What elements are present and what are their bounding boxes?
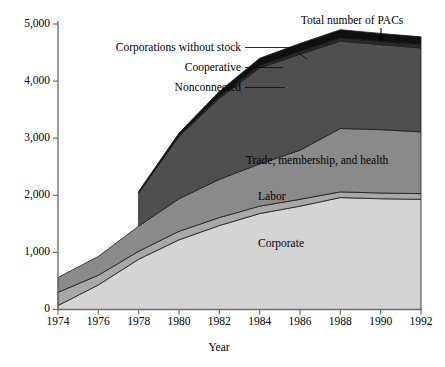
x-tick-label: 1974 — [47, 315, 70, 327]
x-tick-label: 1984 — [248, 315, 271, 327]
y-axis-tick-labels: 5,000 4,000 3,000 2,000 1,000 0 — [24, 17, 50, 314]
x-tick-label: 1992 — [410, 315, 433, 327]
stacked-area-chart: 5,000 4,000 3,000 2,000 1,000 0 1974 197… — [0, 0, 445, 367]
y-tick-label: 0 — [44, 302, 50, 314]
label-corporate: Corporate — [258, 237, 304, 250]
x-tick-label: 1978 — [127, 315, 150, 327]
y-tick-label: 3,000 — [24, 131, 50, 144]
x-tick-label: 1986 — [289, 315, 312, 327]
x-tick-label: 1982 — [208, 315, 231, 327]
label-trade-membership-and-health: Trade, membership, and health — [246, 154, 389, 167]
x-tick-label: 1976 — [87, 315, 110, 327]
label-corporations-without-stock: Corporations without stock — [116, 41, 241, 54]
y-tick-label: 5,000 — [24, 17, 50, 30]
y-axis-ticks — [53, 24, 58, 310]
x-axis-ticks — [58, 310, 421, 315]
label-labor: Labor — [258, 190, 286, 202]
x-tick-label: 1990 — [369, 315, 392, 327]
x-tick-label: 1988 — [329, 315, 352, 327]
chart-canvas: 5,000 4,000 3,000 2,000 1,000 0 1974 197… — [0, 0, 445, 367]
label-cooperative: Cooperative — [185, 61, 241, 74]
y-tick-label: 4,000 — [24, 74, 50, 87]
y-tick-label: 2,000 — [24, 188, 50, 201]
label-nonconnected: Nonconnected — [175, 81, 242, 93]
label-total-number-of-pacs: Total number of PACs — [301, 14, 404, 26]
y-tick-label: 1,000 — [24, 245, 50, 258]
x-axis-title: Year — [208, 341, 229, 353]
x-axis-tick-labels: 1974 1976 1978 1980 1982 1984 1986 1988 … — [47, 315, 433, 327]
x-tick-label: 1980 — [168, 315, 191, 327]
